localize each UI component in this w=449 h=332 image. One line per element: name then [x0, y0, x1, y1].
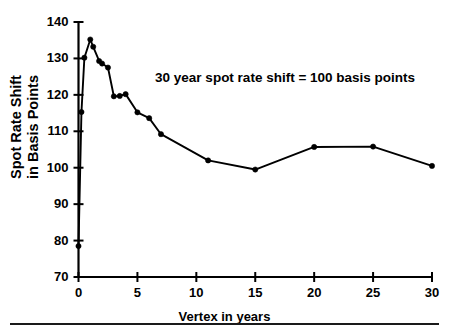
x-tick-label: 0: [64, 285, 94, 300]
chart-annotation: 30 year spot rate shift = 100 basis poin…: [155, 70, 415, 85]
x-tick-label: 30: [417, 285, 447, 300]
x-tick-label: 25: [358, 285, 388, 300]
y-axis-title-line-2: in Basis Points: [25, 42, 42, 212]
chart-ticks: [74, 22, 433, 282]
chart-series-markers: [76, 37, 435, 249]
x-tick-label: 10: [181, 285, 211, 300]
x-axis-title: Vertex in years: [0, 309, 449, 324]
x-tick-label: 15: [240, 285, 270, 300]
y-tick-label: 80: [35, 233, 69, 248]
x-tick-label: 5: [122, 285, 152, 300]
bottom-divider-rule: [10, 323, 439, 325]
y-tick-label: 70: [35, 269, 69, 284]
chart-figure: 708090100110120130140 051015202530 Spot …: [0, 0, 449, 332]
x-tick-label: 20: [299, 285, 329, 300]
y-axis-title: Spot Rate Shift in Basis Points: [8, 42, 42, 212]
y-tick-label: 140: [35, 14, 69, 29]
y-axis-title-line-1: Spot Rate Shift: [8, 42, 25, 212]
